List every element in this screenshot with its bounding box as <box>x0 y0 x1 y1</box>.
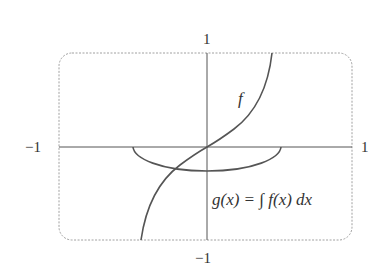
x-max-label: 1 <box>361 139 369 155</box>
diagram-figure: 1 −1 −1 1 f g(x) = ∫ f(x) dx <box>0 0 385 280</box>
y-max-label: 1 <box>203 31 211 47</box>
y-min-label: −1 <box>195 250 211 266</box>
g-label: g(x) = ∫ f(x) dx <box>212 190 313 210</box>
f-label: f <box>238 89 245 108</box>
x-min-label: −1 <box>25 139 41 155</box>
